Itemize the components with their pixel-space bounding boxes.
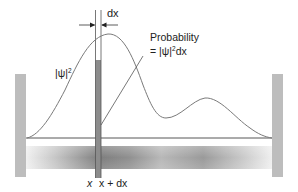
wavefunction-probability-diagram: dx |ψ|2 Probability = |ψ|2dx x x + dx xyxy=(0,0,298,192)
probability-label-line1: Probability xyxy=(150,32,199,43)
probability-label-line2: = |ψ|2dx xyxy=(150,46,187,57)
right-wall xyxy=(272,74,283,177)
dx-label: dx xyxy=(107,8,119,19)
dx-label-text: dx xyxy=(107,7,119,19)
probability-pointer-line xyxy=(101,56,143,125)
x-label: x xyxy=(87,178,92,189)
psi-exponent: 2 xyxy=(68,67,72,74)
psi-squared-label: |ψ|2 xyxy=(55,68,72,79)
x-plus-dx-label: x + dx xyxy=(99,178,127,189)
dx-arrows xyxy=(79,23,118,28)
psi-abs-text: |ψ| xyxy=(55,67,68,79)
probability-formula-prefix: = |ψ| xyxy=(150,45,172,57)
probability-formula-suffix: dx xyxy=(176,45,187,57)
left-wall xyxy=(15,74,26,177)
probability-strip xyxy=(96,60,102,178)
diagram-canvas xyxy=(0,0,298,192)
